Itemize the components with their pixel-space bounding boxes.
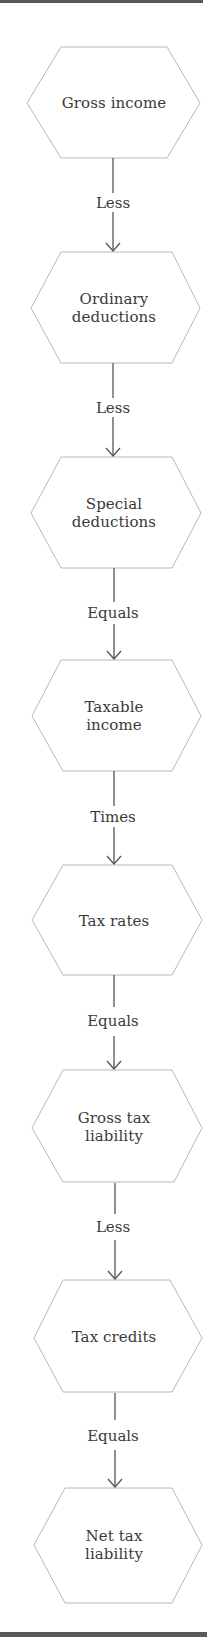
edge-label-equals: Equals [63,1427,163,1445]
edge-label-less: Less [63,1218,163,1236]
node-tax-rates: Tax rates [27,865,201,976]
node-label: Ordinary deductions [27,252,201,363]
bottom-rule [0,1632,207,1637]
node-tax-credits: Tax credits [27,1281,201,1392]
node-special-deductions: Special deductions [27,457,201,568]
node-label: Special deductions [27,457,201,568]
edge-label-equals: Equals [63,1012,163,1030]
node-label: Net tax liability [27,1489,201,1600]
node-label: Taxable income [27,660,201,771]
node-net-tax-liability: Net tax liability [27,1489,201,1600]
edge-label-less: Less [63,399,163,417]
node-taxable-income: Taxable income [27,660,201,771]
edge-label-less: Less [63,194,163,212]
node-label: Gross income [27,47,201,158]
node-label: Tax rates [27,865,201,976]
node-gross-tax-liability: Gross tax liability [27,1071,201,1182]
node-label: Tax credits [27,1281,201,1392]
node-gross-income: Gross income [27,47,201,158]
edge-label-times: Times [63,808,163,826]
edge-label-equals: Equals [63,604,163,622]
node-label: Gross tax liability [27,1071,201,1182]
node-ordinary-deductions: Ordinary deductions [27,252,201,363]
